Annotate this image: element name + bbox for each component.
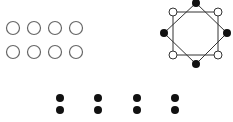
open-circle <box>49 46 62 59</box>
filled-dot <box>133 94 141 102</box>
octagon-figure <box>160 0 231 68</box>
filled-dot <box>56 94 64 102</box>
open-circle <box>28 46 41 59</box>
open-circle-grid <box>7 22 83 59</box>
filled-vertex <box>223 29 231 37</box>
filled-dot <box>171 106 179 114</box>
filled-dot <box>94 106 102 114</box>
filled-dot <box>94 94 102 102</box>
filled-dot <box>171 94 179 102</box>
open-circle <box>7 22 20 35</box>
diagram-canvas <box>0 0 233 122</box>
filled-vertex <box>160 29 168 37</box>
filled-vertex <box>192 60 200 68</box>
open-circle <box>7 46 20 59</box>
filled-dot <box>133 106 141 114</box>
open-circle <box>49 22 62 35</box>
open-vertex <box>169 51 177 59</box>
open-vertex <box>169 8 177 16</box>
open-circle <box>70 22 83 35</box>
dot-pairs <box>56 94 179 114</box>
open-circle <box>70 46 83 59</box>
open-circle <box>28 22 41 35</box>
open-vertex <box>214 8 222 16</box>
filled-dot <box>56 106 64 114</box>
open-vertex <box>214 51 222 59</box>
